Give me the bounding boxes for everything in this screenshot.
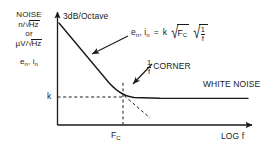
y-axis-caption-line4-radicand: Hz [31,39,42,48]
y-axis-caption-line1: NOISE [4,11,54,20]
y-axis-caption-line4: µV/√Hz [4,39,54,49]
fraction-denominator: f [201,34,205,43]
corner-one-over-f-fraction: 1 f [146,58,152,75]
noise-spectrum-figure: NOISE n/√Hz or µV/√Hz en, in 3dB/Octave … [0,0,271,151]
equation-sqrt-fc-radicand: FC [177,24,190,42]
equation-leader-arrow [92,36,128,54]
corner-fraction-denominator: f [147,67,151,76]
en-base: e [20,57,25,66]
equation-en-subscript: n [136,32,139,38]
one-over-f-asymptote-dashed [120,92,150,118]
fraction-numerator: 1 [201,26,205,34]
noise-equation-annotation: en, in = k √ FC √ 1 f [131,24,208,42]
y-tick-label-k: k [47,92,51,102]
equation-sqrt-fc: √ FC [170,24,189,42]
sqrt-icon: √ [193,24,200,42]
corner-annotation: 1 f CORNER [146,58,191,75]
in-subscript: n [35,61,38,67]
y-axis-symbol-label: en, in [4,58,54,67]
y-axis-caption-line2-numerator: n/ [18,20,25,29]
y-axis-caption: NOISE n/√Hz or µV/√Hz [4,11,54,49]
fc-tick-subscript: C [116,135,120,141]
y-axis-caption-line3: or [4,30,54,39]
y-axis-caption-line2-radicand: Hz [29,20,40,29]
x-tick-label-fc: FC [111,131,121,141]
sqrt-icon: √ [171,24,178,42]
equation-sqrt-one-over-f: √ 1 f [192,24,208,42]
one-over-f-fraction: 1 f [200,25,206,42]
slope-annotation: 3dB/Octave [63,12,108,22]
equation-in-subscript: n [146,32,149,38]
white-noise-annotation: WHITE NOISE [203,80,260,90]
en-subscript: n [25,61,28,67]
fc-subscript: C [183,32,187,39]
x-axis-label: LOG f [221,132,244,142]
in-base: , i [28,57,35,66]
y-axis-caption-line4-numerator: µV/ [16,39,28,48]
equation-equals-sign: = [154,28,159,38]
equation-lhs: en, in [131,28,150,38]
corner-fraction-numerator: 1 [147,59,151,67]
corner-annotation-text: CORNER [153,62,190,72]
equation-coefficient: k [163,28,167,38]
